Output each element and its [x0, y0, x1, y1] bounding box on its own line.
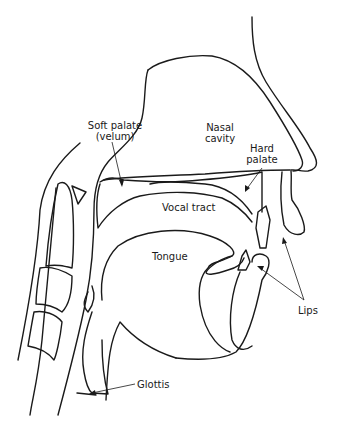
nasal-cavity-label-line2: cavity: [200, 133, 240, 144]
label-glottis: Glottis: [137, 379, 169, 390]
hard-palate-leader: [246, 168, 262, 190]
label-nasal-cavity: Nasal cavity: [200, 122, 240, 144]
soft-palate-arrowhead: [119, 180, 124, 187]
hard-palate-label-line2: palate: [244, 154, 280, 165]
nasal-cavity-label-line1: Nasal: [200, 122, 240, 133]
lips-upper-leader: [284, 240, 304, 300]
soft-palate-label-line1: Soft palate: [82, 120, 148, 131]
glottis-leader: [92, 384, 135, 393]
label-vocal-tract: Vocal tract: [162, 202, 215, 213]
soft-palate-label-line2: (velum): [82, 131, 148, 142]
lips-upper-arrowhead: [282, 237, 287, 244]
label-soft-palate: Soft palate (velum): [82, 120, 148, 142]
label-hard-palate: Hard palate: [244, 143, 280, 165]
hard-palate-label-line1: Hard: [244, 143, 280, 154]
soft-palate-leader: [112, 142, 122, 185]
label-tongue: Tongue: [152, 251, 188, 262]
vocal-tract-diagram: Soft palate (velum) Nasal cavity Hard pa…: [0, 0, 339, 422]
label-lips: Lips: [298, 305, 318, 316]
glottis-arrowhead: [89, 390, 96, 395]
lips-lower-leader: [260, 268, 304, 300]
